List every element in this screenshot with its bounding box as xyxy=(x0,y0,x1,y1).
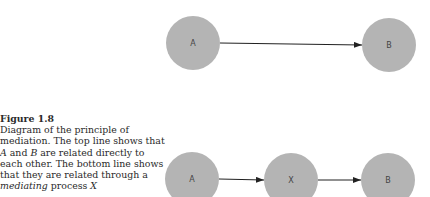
node-label: A xyxy=(190,39,196,48)
nodes: ABAXB xyxy=(165,16,416,197)
arrow-a-to-b xyxy=(220,43,362,45)
node-label: A xyxy=(189,175,195,184)
node-label: X xyxy=(288,176,294,185)
node-label: B xyxy=(385,176,391,185)
node-label: B xyxy=(386,41,392,50)
node-x xyxy=(264,153,318,197)
node-b xyxy=(361,153,415,197)
arrow-a-to-x xyxy=(219,179,264,180)
mediation-diagram: ABAXB xyxy=(0,0,430,197)
